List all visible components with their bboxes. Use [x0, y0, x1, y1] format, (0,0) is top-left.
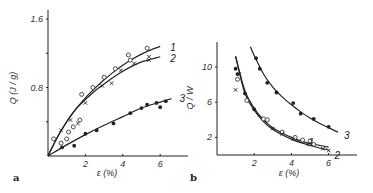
marker-open-circle	[80, 92, 84, 96]
panel-a-y-ticks: 0.81.6	[30, 14, 48, 122]
marker-filled-circle	[128, 111, 132, 115]
figure: 0.81.6 246 123 ε (%) Q (J / g) a 2610 24…	[0, 0, 373, 193]
marker-open-circle	[67, 130, 71, 134]
curve-label-2: 2	[169, 53, 176, 64]
marker-cross	[119, 69, 123, 73]
marker-filled-circle	[164, 99, 168, 103]
marker-filled-circle	[258, 67, 262, 71]
marker-filled-circle	[95, 128, 99, 132]
panel-a-letter: a	[13, 172, 20, 183]
curve-label-1: 1	[309, 137, 315, 148]
marker-filled-circle	[234, 67, 238, 71]
marker-open-circle	[113, 67, 117, 71]
x-tick-label: 6	[326, 158, 331, 168]
marker-filled-circle	[291, 101, 295, 105]
marker-open-circle	[52, 137, 56, 141]
marker-open-circle	[71, 125, 75, 129]
panel-a-chart: 0.81.6 246 123 ε (%) Q (J / g) a	[8, 10, 188, 183]
marker-filled-circle	[145, 103, 149, 107]
marker-open-circle	[102, 75, 106, 79]
marker-open-circle	[128, 58, 132, 62]
marker-filled-circle	[243, 92, 247, 96]
x-tick-label: 6	[158, 159, 163, 169]
marker-open-circle	[59, 141, 63, 145]
marker-open-circle	[265, 118, 269, 122]
y-tick-label: 6	[207, 97, 212, 107]
marker-open-circle	[78, 118, 82, 122]
panel-b-fit-curves	[236, 47, 338, 150]
y-tick-label: 10	[202, 62, 212, 72]
panel-a-data-points	[52, 46, 168, 149]
panel-a-curve-labels: 123	[169, 42, 185, 103]
fit-curve-3	[48, 99, 171, 156]
y-tick-label: 0.8	[30, 83, 43, 93]
marker-cross	[84, 101, 88, 105]
marker-filled-circle	[140, 106, 144, 110]
panel-b-y-axis-label: Q / W	[185, 85, 195, 110]
panel-a-y-axis-label: Q (J / g)	[8, 72, 18, 105]
marker-open-circle	[235, 77, 239, 81]
marker-open-circle	[91, 86, 95, 90]
marker-filled-circle	[72, 144, 76, 148]
marker-open-circle	[145, 46, 149, 50]
fit-curve-2	[48, 57, 160, 156]
marker-open-circle	[245, 98, 249, 102]
marker-filled-circle	[155, 101, 159, 105]
marker-filled-circle	[275, 91, 279, 95]
marker-cross	[110, 81, 114, 85]
curve-label-2: 2	[334, 150, 341, 161]
marker-filled-circle	[254, 56, 258, 60]
marker-filled-circle	[112, 122, 116, 126]
x-tick-label: 2	[82, 159, 88, 169]
marker-filled-circle	[252, 107, 256, 111]
marker-cross	[234, 88, 238, 92]
panel-b-y-ticks: 2610	[202, 62, 217, 142]
panel-b-data-points	[234, 56, 331, 152]
y-tick-label: 1.6	[30, 14, 43, 24]
marker-filled-circle	[327, 125, 331, 129]
marker-filled-circle	[236, 72, 240, 76]
marker-filled-circle	[84, 132, 88, 136]
y-tick-label: 2	[206, 132, 212, 142]
marker-open-circle	[301, 138, 305, 142]
marker-open-circle	[126, 53, 130, 57]
marker-cross	[69, 118, 73, 122]
marker-filled-circle	[158, 105, 162, 109]
marker-filled-circle	[60, 146, 64, 150]
marker-cross	[147, 55, 151, 59]
panel-b-chart: 2610 246 123 ε (%) Q / W b	[185, 42, 357, 183]
x-tick-label: 4	[120, 159, 125, 169]
panel-b-letter: b	[190, 172, 197, 183]
fit-curve-2	[236, 56, 329, 149]
marker-open-circle	[65, 137, 69, 141]
panel-a-x-axis-label: ε (%)	[97, 168, 117, 178]
x-tick-label: 2	[251, 158, 257, 168]
marker-filled-circle	[265, 81, 269, 85]
curve-label-3: 3	[344, 130, 350, 141]
panel-b-x-axis-label: ε (%)	[279, 168, 299, 178]
x-tick-label: 4	[289, 158, 294, 168]
marker-cross	[76, 122, 80, 126]
marker-filled-circle	[299, 112, 303, 116]
marker-filled-circle	[312, 117, 316, 121]
